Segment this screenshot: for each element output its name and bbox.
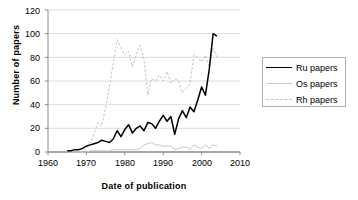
legend-line-icon-os — [266, 79, 292, 89]
series-line-ru — [67, 34, 217, 151]
legend-label: Os papers — [296, 79, 338, 89]
legend: Ru papers Os papers Rh papers — [262, 57, 346, 107]
series-line-rh — [67, 40, 217, 152]
legend-label: Rh papers — [296, 95, 338, 105]
legend-line-icon-rh — [266, 95, 292, 105]
legend-label: Ru papers — [296, 63, 338, 73]
x-axis-title: Date of publication — [48, 181, 240, 191]
legend-item-ru: Ru papers — [266, 60, 344, 76]
legend-item-rh: Rh papers — [266, 92, 344, 108]
legend-item-os: Os papers — [266, 76, 344, 92]
data-series-group — [67, 34, 217, 152]
line-chart: Number of papers 0 20 40 60 80 100 120 1… — [0, 0, 358, 200]
legend-line-icon-ru — [266, 63, 292, 73]
